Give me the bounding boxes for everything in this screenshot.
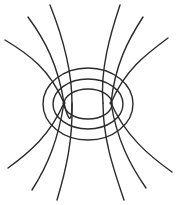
right-charge-dot xyxy=(109,101,112,104)
field-lines xyxy=(5,5,172,200)
field-line-diagram xyxy=(0,0,179,205)
field-line-top-left-1 xyxy=(5,40,64,103)
equipotential-lines xyxy=(43,68,133,140)
charges xyxy=(62,101,112,104)
left-charge-dot xyxy=(62,101,65,104)
field-line-bottom-left-2 xyxy=(32,103,64,190)
field-line-top-right-3 xyxy=(102,5,120,103)
field-line-top-right-2 xyxy=(111,17,143,103)
